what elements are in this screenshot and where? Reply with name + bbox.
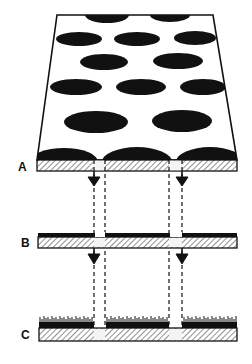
label-c: C — [21, 329, 30, 341]
gap-b-left — [95, 232, 105, 237]
gap-c-left — [94, 329, 105, 340]
gap-c-right — [169, 329, 182, 340]
arrows-a-to-b — [88, 171, 188, 186]
diagram-canvas — [0, 0, 252, 364]
grass-fringe — [39, 316, 237, 328]
layer-a-strip — [37, 160, 237, 171]
arrow-down-icon — [176, 177, 188, 186]
arrow-down-icon — [88, 254, 100, 264]
layer-c-strip — [39, 316, 237, 341]
arrow-down-icon — [88, 177, 100, 186]
gap-a-left — [93, 161, 105, 171]
gap-a-right — [169, 161, 182, 171]
arrows-b-to-c — [88, 248, 188, 264]
sheet-a — [30, 7, 244, 177]
gap-b-right — [170, 232, 182, 237]
arrow-down-icon — [176, 254, 188, 264]
label-b: B — [21, 237, 30, 249]
layer-b-strip — [38, 232, 237, 248]
label-a: A — [18, 161, 27, 173]
